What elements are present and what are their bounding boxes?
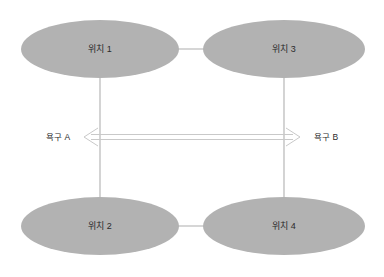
node-group [21,20,365,255]
node-ellipse-4[interactable] [203,197,365,255]
diagram-graphics [0,0,384,277]
node-ellipse-2[interactable] [21,197,179,255]
diagram-canvas: 위치 1 위치 3 위치 2 위치 4 욕구 A 욕구 B [0,0,384,277]
bidirectional-arrow[interactable] [84,128,300,146]
node-ellipse-1[interactable] [21,20,179,78]
arrow-head-left-icon [84,128,98,146]
node-ellipse-3[interactable] [203,20,365,78]
arrow-head-right-icon [286,128,300,146]
